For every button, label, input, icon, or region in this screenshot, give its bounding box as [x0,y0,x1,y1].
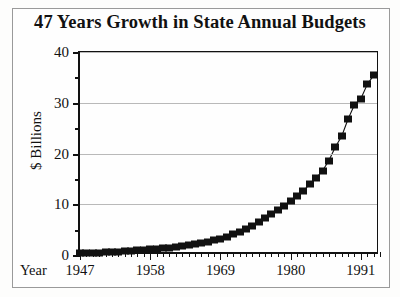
x-tick-1962 [176,252,177,257]
x-tick-1979 [284,252,285,257]
y-tick-20 [73,154,80,156]
x-tick-1985 [323,252,324,257]
x-tick-1978 [278,252,279,257]
gridline-y-40 [80,52,377,53]
x-tick-1992 [367,252,368,257]
x-tick-1959 [157,252,158,257]
chart-title: 47 Years Growth in State Annual Budgets [12,12,388,33]
plot-area: 01020304019471958196919801991 [78,51,378,254]
x-tick-1970 [227,252,228,257]
x-tick-1967 [208,252,209,257]
y-tick-40 [73,52,80,54]
data-point [299,187,307,194]
x-tick-1973 [246,252,247,257]
x-tick-1994 [380,252,381,257]
x-tick-1965 [195,252,196,257]
data-point [306,181,314,188]
gridline-y-30 [80,103,377,104]
x-tick-1972 [240,252,241,257]
x-tick-label-1991: 1991 [346,262,375,279]
x-tick-1987 [335,252,336,257]
data-point [312,174,320,181]
x-tick-1964 [189,252,190,257]
y-tick-minor-25 [75,128,80,130]
x-tick-1968 [214,252,215,257]
x-tick-1958 [150,252,151,260]
y-tick-label-20: 20 [54,145,69,162]
x-tick-1983 [310,252,311,257]
gridline-y-10 [80,204,377,205]
x-tick-1963 [182,252,183,257]
y-tick-10 [73,204,80,206]
data-point [370,72,378,79]
x-tick-1966 [201,252,202,257]
x-tick-1975 [259,252,260,257]
gridline-y-20 [80,154,377,155]
y-tick-minor-5 [75,230,80,232]
data-point [350,101,358,108]
x-tick-1982 [303,252,304,257]
x-tick-1960 [163,252,164,257]
x-tick-1990 [354,252,355,257]
x-tick-1976 [265,252,266,257]
x-tick-1969 [220,252,221,260]
x-tick-1974 [252,252,253,257]
x-tick-label-1969: 1969 [206,262,235,279]
y-tick-label-0: 0 [62,247,70,264]
x-tick-label-1980: 1980 [276,262,305,279]
x-axis-label: Year [20,262,47,279]
y-tick-minor-15 [75,179,80,181]
data-point [325,157,333,164]
y-tick-minor-35 [75,77,80,79]
data-point [331,143,339,150]
x-tick-label-1958: 1958 [136,262,165,279]
x-tick-1993 [374,252,375,257]
x-tick-1989 [348,252,349,257]
x-tick-1961 [169,252,170,257]
data-point [338,133,346,140]
y-tick-label-10: 10 [54,196,69,213]
y-tick-30 [73,103,80,105]
y-tick-label-40: 40 [54,44,69,61]
x-tick-1984 [316,252,317,257]
data-point [363,81,371,88]
y-tick-label-30: 30 [54,94,69,111]
x-tick-1977 [271,252,272,257]
data-point [319,167,327,174]
x-tick-label-1947: 1947 [66,262,95,279]
x-tick-1980 [291,252,292,260]
x-tick-1988 [342,252,343,257]
data-point [357,95,365,102]
figure: 47 Years Growth in State Annual Budgets … [0,0,400,297]
x-tick-1981 [297,252,298,257]
x-tick-1971 [233,252,234,257]
x-tick-1986 [329,252,330,257]
data-point [344,115,352,122]
x-tick-1991 [361,252,362,260]
y-axis-label: $ Billions [28,81,45,201]
